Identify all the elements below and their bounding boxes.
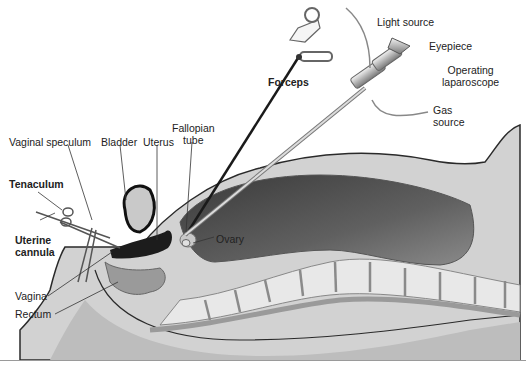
label-gas-source-line2: source — [433, 116, 465, 128]
label-forceps: Forceps — [268, 76, 309, 88]
bottom-divider — [0, 360, 526, 361]
label-bladder: Bladder — [101, 136, 137, 148]
label-uterus: Uterus — [143, 136, 174, 148]
label-fallopian-tube-line2: tube — [172, 134, 215, 146]
label-rectum: Rectum — [15, 308, 51, 320]
label-fallopian-tube: Fallopian tube — [172, 122, 215, 146]
label-eyepiece: Eyepiece — [429, 40, 472, 52]
label-gas-source: Gas source — [433, 104, 465, 128]
label-ovary: Ovary — [216, 233, 244, 245]
label-tenaculum: Tenaculum — [9, 178, 64, 190]
ovary — [182, 240, 190, 247]
label-operating-laparoscope-line1: Operating — [442, 64, 499, 76]
label-operating-laparoscope: Operating laparoscope — [442, 64, 499, 88]
laparoscopy-illustration — [0, 0, 526, 380]
label-fallopian-tube-line1: Fallopian — [172, 122, 215, 134]
label-operating-laparoscope-line2: laparoscope — [442, 76, 499, 88]
label-vaginal-speculum: Vaginal speculum — [9, 136, 91, 148]
label-light-source: Light source — [377, 16, 434, 28]
label-gas-source-line1: Gas — [433, 104, 465, 116]
label-uterine-cannula-line1: Uterine — [15, 234, 55, 246]
label-uterine-cannula-line2: cannula — [15, 246, 55, 258]
label-uterine-cannula: Uterine cannula — [15, 234, 55, 258]
label-vagina: Vagina — [15, 290, 47, 302]
